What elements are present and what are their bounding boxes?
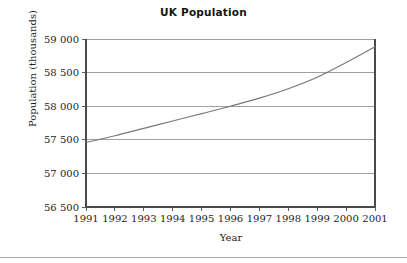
x-tick-label: 2001 [362,213,387,224]
gridlines-group [86,39,375,207]
bottom-divider [0,257,407,258]
y-tick-labels-group: 56 50057 00057 50058 00058 50059 000 [44,34,86,213]
y-tick-label: 57 500 [44,134,79,145]
x-tick-label: 2000 [333,213,358,224]
line-chart-plot: 56 50057 00057 50058 00058 50059 000 199… [0,0,407,263]
x-tick-label: 1998 [276,213,301,224]
series-line-uk-population [86,47,375,143]
x-tick-label: 1991 [73,213,98,224]
x-tick-label: 1996 [218,213,243,224]
x-tick-label: 1995 [189,213,214,224]
y-axis-label: Population (thousands) [27,0,38,149]
x-tick-label: 1994 [160,213,185,224]
x-tick-label: 1997 [247,213,272,224]
y-tick-label: 56 500 [44,202,79,213]
x-tick-label: 1999 [304,213,329,224]
chart-figure: UK Population 56 50057 00057 50058 00058… [0,0,407,263]
x-tick-labels-group: 1991199219931994199519961997199819992000… [73,207,387,224]
x-axis-label: Year [86,232,376,243]
x-tick-label: 1993 [131,213,156,224]
y-tick-label: 58 500 [44,67,79,78]
y-tick-label: 58 000 [44,101,79,112]
y-tick-label: 59 000 [44,34,79,45]
x-tick-label: 1992 [102,213,127,224]
axes-group [86,39,375,207]
data-series-group [86,47,375,143]
y-tick-label: 57 000 [44,168,79,179]
